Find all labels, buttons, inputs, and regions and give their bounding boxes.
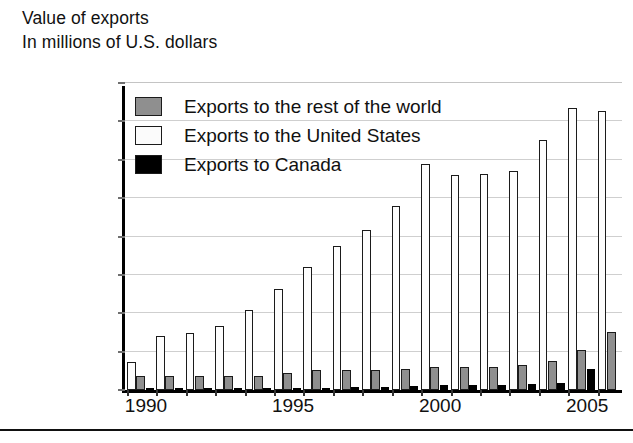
x-axis-label: 2000 xyxy=(419,396,461,415)
x-axis-tick xyxy=(245,390,247,396)
bar-1995-us xyxy=(274,289,283,390)
bar-2000-canada xyxy=(440,385,448,390)
bar-2004-canada xyxy=(557,383,565,390)
bar-1991-row xyxy=(165,376,174,390)
x-axis-tick xyxy=(480,390,482,396)
bar-1996-us xyxy=(303,267,312,390)
bar-1996-canada xyxy=(322,388,330,390)
gridline xyxy=(125,236,622,237)
bar-2001-row xyxy=(460,367,469,390)
bar-2004-row xyxy=(548,361,557,390)
bar-1994-us xyxy=(245,310,254,390)
bar-1998-us xyxy=(362,230,371,390)
bar-1998-canada xyxy=(381,387,389,390)
bar-1997-row xyxy=(342,370,351,390)
y-axis-tick xyxy=(118,82,125,84)
bar-1993-canada xyxy=(234,388,242,390)
bar-1993-us xyxy=(215,326,224,390)
bar-2000-us xyxy=(421,164,430,390)
y-axis-tick xyxy=(118,236,125,238)
x-axis-label: 2005 xyxy=(566,396,608,415)
bar-2004-us xyxy=(539,140,548,390)
bar-2003-us xyxy=(509,171,518,391)
x-axis-label: 1990 xyxy=(125,396,167,415)
bar-2003-row xyxy=(518,365,527,390)
legend-item: Exports to the rest of the world xyxy=(135,92,465,121)
bar-1990-canada xyxy=(146,388,154,390)
chart-title-block: Value of exports In millions of U.S. dol… xyxy=(22,6,582,54)
bar-2002-row xyxy=(489,367,498,390)
legend-label: Exports to Canada xyxy=(184,155,341,175)
legend-label: Exports to the United States xyxy=(184,126,421,146)
x-axis-tick xyxy=(539,390,541,396)
legend-label: Exports to the rest of the world xyxy=(184,97,442,117)
x-axis-tick xyxy=(215,390,217,396)
x-axis-label: 1995 xyxy=(272,396,314,415)
y-axis-tick xyxy=(118,389,125,391)
bar-2005-canada xyxy=(587,369,595,390)
bar-1998-row xyxy=(371,370,380,390)
legend-swatch-white-swatch xyxy=(135,126,162,145)
legend-swatch-black-swatch xyxy=(135,155,162,174)
bar-2002-us xyxy=(480,174,489,390)
legend-swatch-gray-swatch xyxy=(135,97,162,116)
x-axis-tick xyxy=(509,390,511,396)
bar-1994-canada xyxy=(263,388,271,390)
bar-1991-canada xyxy=(175,388,183,390)
y-axis-tick xyxy=(118,351,125,353)
legend-item: Exports to Canada xyxy=(135,150,465,179)
y-axis-tick xyxy=(118,274,125,276)
bar-1996-row xyxy=(312,370,321,390)
legend-item: Exports to the United States xyxy=(135,121,465,150)
bar-2006-us xyxy=(598,111,607,390)
bar-2005-row xyxy=(577,350,586,390)
x-axis-tick xyxy=(392,390,394,396)
bar-2001-us xyxy=(451,175,460,390)
chart-legend: Exports to the rest of the worldExports … xyxy=(135,92,465,179)
bar-1992-us xyxy=(186,333,195,390)
footer-divider xyxy=(0,429,633,431)
page-title: Value of exports xyxy=(22,6,582,30)
bar-1990-row xyxy=(136,376,145,390)
bar-1991-us xyxy=(156,336,165,390)
x-axis-tick xyxy=(362,390,364,396)
x-axis-tick xyxy=(186,390,188,396)
bar-1997-us xyxy=(333,246,342,390)
gridline xyxy=(125,351,622,352)
bar-1999-canada xyxy=(410,386,418,390)
y-axis-tick xyxy=(118,312,125,314)
bar-1992-row xyxy=(195,376,204,390)
gridline xyxy=(125,82,622,83)
bar-2001-canada xyxy=(469,385,477,390)
bar-1994-row xyxy=(254,376,263,390)
y-axis-tick xyxy=(118,159,125,161)
bar-1990-us xyxy=(127,362,136,390)
chart-subtitle: In millions of U.S. dollars xyxy=(22,30,582,54)
y-axis-tick xyxy=(118,197,125,199)
bar-2000-row xyxy=(430,367,439,390)
bar-1999-row xyxy=(401,369,410,390)
gridline xyxy=(125,312,622,313)
bar-1997-canada xyxy=(351,387,359,390)
gridline xyxy=(125,274,622,275)
bar-1993-row xyxy=(224,376,233,390)
bar-1999-us xyxy=(392,206,401,390)
y-axis-tick xyxy=(118,120,125,122)
bar-2005-us xyxy=(568,108,577,390)
bar-1995-canada xyxy=(293,388,301,390)
export-value-bar-chart: Value of exports In millions of U.S. dol… xyxy=(0,0,633,443)
bar-1995-row xyxy=(283,373,292,390)
bar-2003-canada xyxy=(528,384,536,390)
bar-2006-row xyxy=(607,332,616,390)
gridline xyxy=(125,197,622,198)
x-axis-tick xyxy=(333,390,335,396)
bar-2002-canada xyxy=(498,385,506,390)
bar-1992-canada xyxy=(204,388,212,390)
